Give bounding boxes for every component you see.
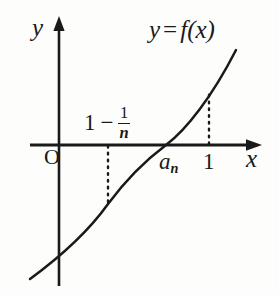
y-axis-arrowhead [53,16,64,31]
math-figure: y x O y=f(x) 1− 1 n an 1 [0,0,279,295]
function-equation-lhs: y [149,16,160,43]
x-axis-label: x [246,146,257,171]
fraction-numerator: 1 [119,105,129,123]
function-equation-equals: = [160,16,180,43]
x-label-one-minus-one-over-n: 1− 1 n [84,104,130,141]
a-n-subscript: n [171,160,179,176]
minus-operator: − [96,111,119,134]
graph-canvas [0,0,279,295]
x-tick-label-one: 1 [203,150,215,173]
fraction-one-over-n: 1 n [118,105,129,142]
function-equation-label: y=f(x) [149,17,215,42]
x-tick-label-a-n: an [159,150,178,173]
y-axis-label: y [32,15,43,40]
a-n-base: a [159,149,171,174]
one-minus-whole-part: 1 [84,111,96,134]
fraction-denominator: n [118,124,129,142]
function-equation-rhs: f(x) [180,16,215,43]
origin-label: O [44,146,60,168]
